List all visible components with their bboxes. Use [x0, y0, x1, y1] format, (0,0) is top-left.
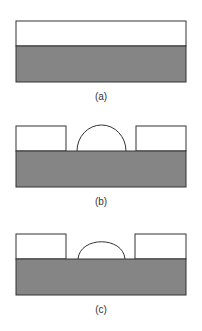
panel-b-left-block: [16, 126, 66, 151]
panel-b-substrate: [16, 151, 186, 187]
panel-c-substrate: [16, 259, 186, 295]
panel-c-label: (c): [95, 304, 107, 315]
panel-a-substrate: [16, 46, 186, 82]
panel-b-label: (b): [95, 196, 107, 207]
cross-section-diagram: (a) (b) (c): [0, 0, 202, 331]
panel-c-left-block: [16, 234, 66, 259]
panel-a-label: (a): [95, 91, 107, 102]
panel-a-top-layer: [16, 21, 186, 46]
panel-b-right-block: [136, 126, 186, 151]
panel-b-dome: [77, 125, 126, 151]
panel-c: (c): [16, 234, 186, 315]
panel-c-dome: [78, 242, 125, 259]
panel-c-right-block: [135, 234, 186, 259]
panel-b: (b): [16, 125, 186, 207]
panel-a: (a): [16, 21, 186, 102]
